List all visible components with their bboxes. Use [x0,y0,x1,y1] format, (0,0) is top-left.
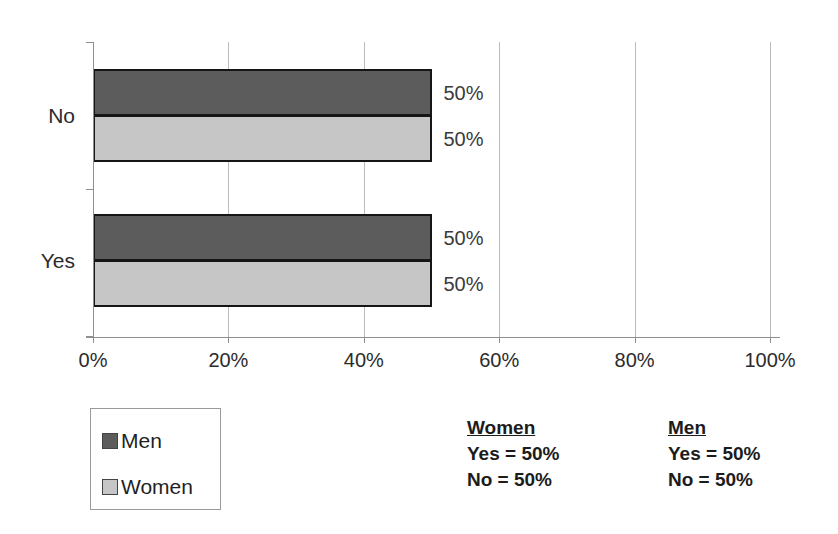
bar-yes-women [93,260,432,307]
bar-value-label: 50% [444,82,484,105]
bar-chart-figure: 50%50%50%50% MenWomen 0%20%40%60%80%100%… [0,0,838,534]
summary-title: Men [668,415,760,441]
bar-no-women [93,115,432,162]
gridline-80% [635,42,636,337]
x-tick-label: 40% [344,349,384,372]
summary-line: Yes = 50% [668,441,760,467]
bar-value-label: 50% [444,128,484,151]
x-tick-label: 0% [79,349,108,372]
x-tick-label: 20% [208,349,248,372]
legend-swatch-women [102,479,118,495]
bar-yes-men [93,214,432,261]
y-axis-line [93,42,94,337]
summary-line: No = 50% [668,467,760,493]
bar-no-men [93,69,432,116]
summary-line: Yes = 50% [467,441,559,467]
summary-block-men: MenYes = 50%No = 50% [668,415,760,493]
y-axis-tick-0 [86,42,93,43]
summary-block-women: WomenYes = 50%No = 50% [467,415,559,493]
y-axis-tick-1 [86,189,93,190]
legend-item-women: Women [102,475,193,499]
legend-label: Women [121,475,193,499]
plot-area: 50%50%50%50% [93,42,770,337]
category-label-no: No [5,104,75,128]
legend-swatch-men [102,433,118,449]
gridline-100% [770,42,771,337]
legend-label: Men [121,429,162,453]
summary-title: Women [467,415,559,441]
bar-value-label: 50% [444,273,484,296]
x-tick-label: 100% [744,349,795,372]
summary-line: No = 50% [467,467,559,493]
gridline-60% [499,42,500,337]
x-tick-label: 80% [615,349,655,372]
category-label-yes: Yes [5,249,75,273]
legend-box: MenWomen [90,408,221,510]
legend-item-men: Men [102,429,162,453]
bar-value-label: 50% [444,227,484,250]
x-axis-line [86,337,780,338]
x-tick-label: 60% [479,349,519,372]
